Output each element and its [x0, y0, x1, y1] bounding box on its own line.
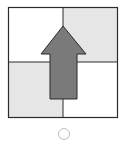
option-radio[interactable]	[59, 129, 70, 140]
figure	[0, 0, 121, 141]
